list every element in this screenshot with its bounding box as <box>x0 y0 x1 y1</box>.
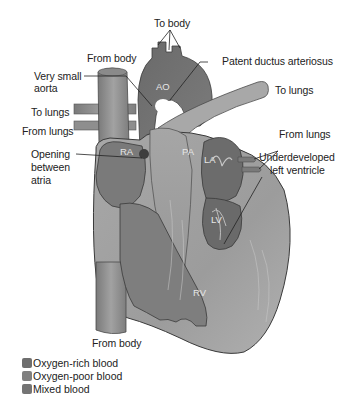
legend: Oxygen-rich blood Oxygen-poor blood Mixe… <box>22 356 122 395</box>
label-patent-ductus-arteriosus: Patent ductus arteriosus <box>222 55 333 67</box>
label-from-lungs-right: From lungs <box>279 128 331 140</box>
left-atrium <box>201 138 243 202</box>
chamber-label-ra: RA <box>120 146 133 157</box>
label-from-lungs-left: From lungs <box>22 125 74 137</box>
label-opening-line1: Opening <box>31 148 70 160</box>
inferior-vena-cava <box>96 262 126 334</box>
legend-swatch-oxygen-poor <box>22 371 32 381</box>
chamber-label-rv: RV <box>193 287 206 298</box>
chamber-label-ao: AO <box>156 81 170 92</box>
label-opening-line3: atria <box>31 174 51 186</box>
label-underdeveloped-line1: Underdeveloped <box>259 151 335 163</box>
legend-item-oxygen-rich: Oxygen-rich blood <box>22 356 122 369</box>
superior-vena-cava <box>98 68 129 146</box>
legend-swatch-mixed <box>22 384 32 394</box>
chamber-label-la: LA <box>204 154 216 165</box>
label-to-lungs-right: To lungs <box>275 84 313 96</box>
legend-item-oxygen-poor: Oxygen-poor blood <box>22 369 122 382</box>
label-from-body-bottom: From body <box>92 337 141 349</box>
label-from-body-top: From body <box>87 52 136 64</box>
legend-label-mixed: Mixed blood <box>33 383 90 395</box>
label-opening-line2: between <box>31 161 70 173</box>
legend-swatch-oxygen-rich <box>22 358 32 368</box>
legend-label-oxygen-rich: Oxygen-rich blood <box>33 357 118 369</box>
label-to-body: To body <box>154 17 190 29</box>
legend-label-oxygen-poor: Oxygen-poor blood <box>33 370 122 382</box>
legend-item-mixed: Mixed blood <box>22 382 122 395</box>
label-very-small-aorta-line2: aorta <box>34 82 57 94</box>
chamber-label-pa: PA <box>182 146 194 157</box>
label-to-lungs-left: To lungs <box>31 106 69 118</box>
chamber-label-lv: LV <box>211 214 222 225</box>
label-underdeveloped-line2: left ventricle <box>270 164 325 176</box>
heart-diagram: To body From body Very small aorta Paten… <box>0 0 347 412</box>
label-very-small-aorta-line1: Very small <box>34 70 81 82</box>
